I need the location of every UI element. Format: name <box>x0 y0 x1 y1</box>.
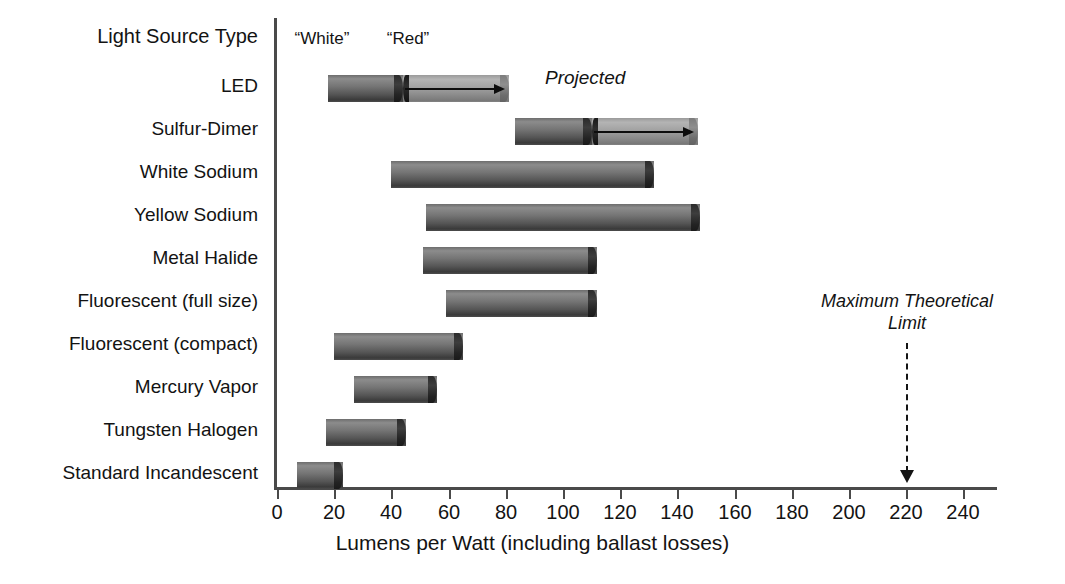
bar-led-current <box>328 75 403 102</box>
y-axis-line <box>274 18 277 490</box>
bar-cap <box>588 290 597 317</box>
max-theoretical-limit-arrowhead <box>900 470 914 483</box>
x-tick-label-240: 240 <box>946 502 979 522</box>
x-axis-tick-140 <box>677 490 679 499</box>
y-tick-label-fluorescent-full-size: Fluorescent (full size) <box>77 291 258 310</box>
x-axis-title: Lumens per Watt (including ballast losse… <box>0 531 1065 555</box>
y-tick-label-fluorescent-compact: Fluorescent (compact) <box>69 334 258 353</box>
bar-cap <box>397 419 406 446</box>
max-theoretical-limit-line1: Maximum Theoretical <box>821 290 993 312</box>
bar-fluorescent-compact <box>334 333 463 360</box>
y-axis-title: Light Source Type <box>97 26 258 46</box>
bar-mercury-vapor <box>354 376 437 403</box>
bar-standard-incandescent <box>297 462 343 489</box>
y-tick-label-led: LED <box>221 76 258 95</box>
max-theoretical-limit-label: Maximum Theoretical Limit <box>821 290 993 334</box>
bar-cap <box>583 118 592 145</box>
x-tick-label-60: 60 <box>438 502 460 522</box>
max-theoretical-limit-line2: Limit <box>821 312 993 334</box>
x-axis-tick-180 <box>792 490 794 499</box>
bar-cap <box>691 204 700 231</box>
x-axis-tick-100 <box>563 490 565 499</box>
bar-white-sodium <box>391 161 654 188</box>
x-axis-tick-80 <box>506 490 508 499</box>
x-axis-line <box>274 487 997 490</box>
y-tick-label-metal-halide: Metal Halide <box>152 248 258 267</box>
x-axis-tick-200 <box>849 490 851 499</box>
x-axis-tick-0 <box>277 490 279 499</box>
x-tick-label-200: 200 <box>832 502 865 522</box>
x-axis-tick-220 <box>906 490 908 499</box>
projection-arrow-sulfur-dimer <box>594 131 692 133</box>
x-tick-label-120: 120 <box>603 502 636 522</box>
x-tick-label-20: 20 <box>323 502 345 522</box>
projected-callout-label: Projected <box>545 68 625 87</box>
y-tick-label-sulfur-dimer: Sulfur-Dimer <box>151 119 258 138</box>
projection-arrow-led <box>405 88 503 90</box>
y-tick-label-yellow-sodium: Yellow Sodium <box>134 205 258 224</box>
bar-tungsten-halogen <box>326 419 406 446</box>
x-tick-label-220: 220 <box>889 502 922 522</box>
x-tick-label-0: 0 <box>271 502 282 522</box>
x-tick-label-40: 40 <box>380 502 402 522</box>
bar-cap <box>588 247 597 274</box>
x-axis-tick-60 <box>449 490 451 499</box>
bar-cap <box>645 161 654 188</box>
x-axis-tick-160 <box>735 490 737 499</box>
bar-cap <box>428 376 437 403</box>
y-axis-label-column: Light Source Type LED Sulfur-Dimer White… <box>0 0 258 584</box>
bar-sulfur-dimer-current <box>515 118 592 145</box>
bar-cap <box>334 462 343 489</box>
x-tick-label-160: 160 <box>718 502 751 522</box>
y-tick-label-standard-incandescent: Standard Incandescent <box>63 463 258 482</box>
bar-cap <box>394 75 403 102</box>
bar-cap <box>454 333 463 360</box>
y-tick-label-white-sodium: White Sodium <box>140 162 258 181</box>
x-tick-label-80: 80 <box>495 502 517 522</box>
y-tick-label-mercury-vapor: Mercury Vapor <box>135 377 258 396</box>
y-tick-label-tungsten-halogen: Tungsten Halogen <box>103 420 258 439</box>
x-tick-label-140: 140 <box>660 502 693 522</box>
plot-area: 0 20 40 60 80 100 120 140 160 180 200 22… <box>277 18 997 490</box>
x-axis-tick-40 <box>391 490 393 499</box>
bar-fluorescent-full-size <box>446 290 597 317</box>
bar-metal-halide <box>423 247 597 274</box>
max-theoretical-limit-dashed-line <box>906 343 908 472</box>
x-axis-tick-240 <box>963 490 965 499</box>
x-tick-label-100: 100 <box>546 502 579 522</box>
x-axis-tick-20 <box>334 490 336 499</box>
bar-yellow-sodium <box>426 204 700 231</box>
x-tick-label-180: 180 <box>775 502 808 522</box>
x-axis-tick-120 <box>620 490 622 499</box>
chart-root: Light Source Type LED Sulfur-Dimer White… <box>0 0 1065 584</box>
